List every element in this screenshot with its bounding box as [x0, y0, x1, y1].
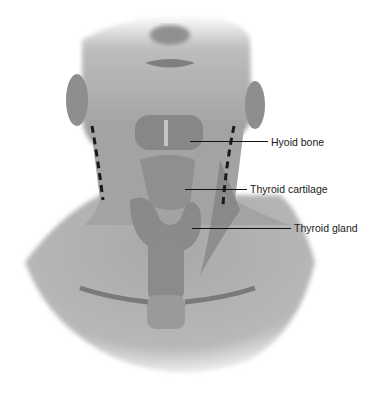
right-ear — [245, 81, 265, 129]
neck-illustration — [0, 0, 376, 394]
left-ear — [66, 74, 88, 126]
thyroid-gland-leader-line — [192, 228, 291, 229]
hyoid-leader-line — [190, 141, 268, 142]
hyoid-region — [135, 115, 203, 150]
label-hyoid-bone: Hyoid bone — [271, 136, 324, 148]
label-thyroid-gland: Thyroid gland — [294, 222, 358, 234]
nose — [150, 25, 190, 45]
label-thyroid-cartilage: Thyroid cartilage — [250, 183, 328, 195]
trachea — [148, 240, 184, 300]
sternum — [147, 295, 185, 329]
thyroid-cartilage-leader-line — [185, 189, 247, 190]
neck-anatomy-figure: Hyoid bone Thyroid cartilage Thyroid gla… — [0, 0, 376, 394]
epiglottis — [164, 120, 168, 146]
